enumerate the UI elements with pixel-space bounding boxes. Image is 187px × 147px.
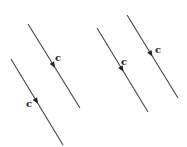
diagram-canvas: cccc xyxy=(0,0,187,147)
arrowhead-icon xyxy=(33,97,38,103)
left-pair-group: cc xyxy=(11,24,80,145)
right-pair-group: cc xyxy=(97,15,178,112)
arrowhead-icon xyxy=(147,50,152,56)
line-label: c xyxy=(121,56,127,67)
line-label: c xyxy=(155,44,161,55)
parallel-lines-diagram: cccc xyxy=(0,0,187,147)
line-label: c xyxy=(55,52,61,63)
line-label: c xyxy=(26,98,32,109)
